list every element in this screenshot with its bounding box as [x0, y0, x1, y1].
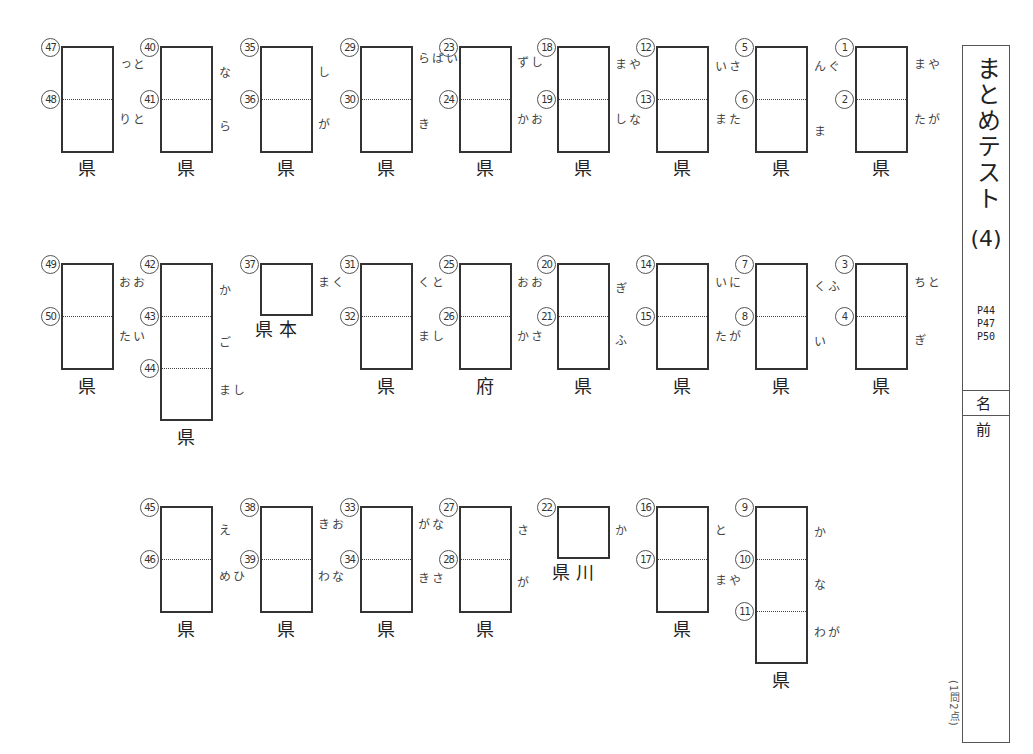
reading-hint: ぎ [612, 282, 626, 295]
divider [857, 316, 906, 317]
answer-box-shizuoka[interactable] [459, 46, 512, 153]
suffix-label: 県 [855, 376, 907, 398]
divider [63, 99, 112, 100]
question-number: 28 [439, 550, 458, 569]
answer-box-okinawa[interactable] [260, 506, 313, 613]
page-references: P44 P47 P50 [963, 304, 1009, 343]
worksheet-title: まとめテスト [963, 56, 1009, 212]
answer-box-osaka[interactable] [459, 263, 512, 370]
reading-hint: か [612, 524, 626, 537]
reading-hint: とり [116, 113, 144, 126]
divider [757, 611, 806, 612]
reading-hint: おか [514, 113, 542, 126]
name-field[interactable] [963, 418, 1009, 742]
suffix-label: 県 [755, 158, 807, 180]
answer-box-nara[interactable] [160, 46, 213, 153]
divider [262, 559, 311, 560]
page-ref: P50 [963, 330, 1009, 343]
reading-hint: しま [216, 384, 244, 397]
reading-hint: さき [415, 572, 443, 585]
answer-box-niigata[interactable] [656, 263, 709, 370]
divider [461, 316, 510, 317]
reading-hint: か [216, 284, 230, 297]
divider [362, 316, 411, 317]
answer-box-shiga[interactable] [260, 46, 313, 153]
divider [162, 368, 211, 369]
question-number: 21 [537, 307, 556, 326]
reading-hint: おき [315, 518, 343, 531]
reading-hint: ひめ [216, 570, 244, 583]
answer-box-fukui[interactable] [755, 263, 808, 370]
question-number: 18 [537, 38, 556, 57]
answer-box-tottori[interactable] [61, 46, 114, 153]
answer-box-tokushima[interactable] [360, 263, 413, 370]
suffix-label: 県 [656, 376, 708, 398]
question-number: 39 [240, 550, 259, 569]
worksheet-number: (4) [963, 226, 1009, 251]
question-number: 26 [439, 307, 458, 326]
question-number: 41 [140, 90, 159, 109]
reading-hint: やま [911, 58, 939, 71]
divider [559, 99, 608, 100]
answer-box-kanagawa[interactable] [755, 506, 808, 664]
question-number: 2 [835, 90, 854, 109]
answer-box-kagoshima[interactable] [160, 263, 213, 421]
answer-box-toyama[interactable] [656, 506, 709, 613]
answer-box-nagasaki[interactable] [360, 506, 413, 613]
answer-box-yamagata[interactable] [855, 46, 908, 153]
answer-box-saitama[interactable] [656, 46, 709, 153]
answer-box-saga[interactable] [459, 506, 512, 613]
suffix-label: 県 [360, 619, 412, 641]
question-number: 6 [735, 90, 754, 109]
reading-hint: ま [811, 125, 825, 138]
question-number: 27 [439, 498, 458, 517]
reading-hint: とち [911, 276, 939, 289]
reading-hint: ふく [811, 280, 839, 293]
reading-hint: がた [911, 113, 939, 126]
reading-hint: とく [415, 276, 443, 289]
divider [658, 316, 707, 317]
question-number: 44 [140, 359, 159, 378]
suffix-label: 県 [160, 427, 212, 449]
question-number: 9 [735, 498, 754, 517]
reading-hint: なし [612, 113, 640, 126]
answer-box-ibaraki[interactable] [360, 46, 413, 153]
divider [857, 99, 906, 100]
suffix-label: 県 [557, 158, 609, 180]
answer-box-tochigi[interactable] [855, 263, 908, 370]
reading-hint: やま [712, 574, 740, 587]
reading-hint: おお [514, 276, 542, 289]
question-number: 12 [636, 38, 655, 57]
reading-hint: な [216, 66, 230, 79]
answer-box-gunma[interactable] [755, 46, 808, 153]
divider [461, 99, 510, 100]
question-number: 36 [240, 90, 259, 109]
answer-box-yamanashi[interactable] [557, 46, 610, 153]
answer-box-ehime[interactable] [160, 506, 213, 613]
question-number: 32 [340, 307, 359, 326]
question-number: 47 [41, 38, 60, 57]
divider [757, 316, 806, 317]
question-number: 15 [636, 307, 655, 326]
suffix-label: 県 [260, 619, 312, 641]
reading-hint: とっ [116, 58, 144, 71]
reading-hint: なわ [315, 570, 343, 583]
reading-hint: たま [712, 113, 740, 126]
answer-box-kagawa[interactable] [557, 506, 610, 559]
answer-box-kumamoto[interactable] [260, 263, 313, 316]
suffix-label: 県 [656, 158, 708, 180]
suffix-label: 県 [459, 619, 511, 641]
reading-hint: さ [514, 524, 528, 537]
question-number: 3 [835, 255, 854, 274]
answer-box-gifu[interactable] [557, 263, 610, 370]
divider [162, 316, 211, 317]
question-number: 31 [340, 255, 359, 274]
reading-hint: なが [415, 518, 443, 531]
answer-box-oita[interactable] [61, 263, 114, 370]
reading-hint: がわ [811, 626, 839, 639]
suffix-label: 県 [755, 376, 807, 398]
question-number: 10 [735, 550, 754, 569]
suffix-label: 県 [61, 376, 113, 398]
reading-hint: ふ [612, 334, 626, 347]
question-number: 20 [537, 255, 556, 274]
